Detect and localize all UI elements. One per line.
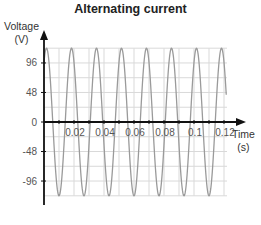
- x-tick-label: 0.06: [125, 127, 145, 138]
- y-tick-label: 96: [26, 57, 38, 68]
- x-tick-label: 0.1: [188, 127, 202, 138]
- y-tick-label: -48: [23, 146, 38, 157]
- y-tick-label: 48: [26, 87, 38, 98]
- x-tick-label: 0.04: [95, 127, 115, 138]
- plot-area: 96480-48-960.020.040.060.080.10.12: [0, 0, 261, 225]
- x-tick-label: 0.08: [155, 127, 175, 138]
- x-tick-label: 0.02: [65, 127, 85, 138]
- y-tick-label: -96: [23, 176, 38, 187]
- y-tick-label: 0: [31, 117, 37, 128]
- x-tick-label: 0.12: [215, 127, 235, 138]
